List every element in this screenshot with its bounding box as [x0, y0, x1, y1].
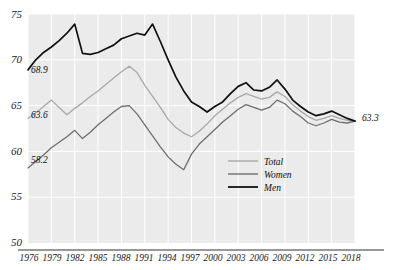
legend-label-women: Women [264, 170, 292, 180]
annotation-women-start: 58.2 [31, 155, 48, 165]
annotation-end-value: 63.3 [362, 113, 379, 123]
y-tick-65: 65 [0, 99, 22, 111]
y-tick-55: 55 [0, 190, 22, 202]
line-chart-canvas [0, 0, 397, 270]
y-tick-70: 70 [0, 53, 22, 65]
legend-label-men: Men [264, 183, 281, 193]
y-tick-60: 60 [0, 145, 22, 157]
annotation-total-start: 63.6 [31, 110, 48, 120]
chart-container: 75 70 65 60 55 50 1976 1979 1982 1985 19… [0, 0, 397, 270]
legend-label-total: Total [264, 157, 283, 167]
x-tick-2018: 2018 [336, 253, 366, 263]
y-tick-50: 50 [0, 236, 22, 248]
y-tick-75: 75 [0, 8, 22, 20]
annotation-men-start: 68.9 [31, 65, 48, 75]
